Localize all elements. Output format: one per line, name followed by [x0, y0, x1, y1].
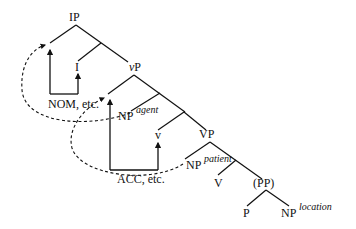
edge-ip-spec [50, 25, 76, 43]
node-np-agent: NP [118, 109, 134, 123]
node-vp-small: vP [129, 60, 141, 74]
edge-ibar-i [78, 43, 101, 61]
node-np-patient-sup: patient [203, 153, 232, 164]
label-acc: ACC, etc. [117, 172, 165, 186]
node-vp: VP [199, 127, 215, 141]
node-v-big: V [214, 176, 223, 190]
node-np-patient: NP [186, 158, 202, 172]
edge-vp-spec [108, 75, 134, 94]
syntax-tree-diagram: IP I vP NP agent v VP NP patient V (PP) … [0, 0, 356, 229]
node-vp-small-p: P [134, 60, 141, 74]
node-i: I [75, 60, 79, 74]
node-np-agent-sup: agent [136, 104, 158, 115]
node-np-location-sup: location [299, 201, 332, 212]
node-np-location: NP [281, 206, 297, 220]
edge-pp-p [247, 190, 266, 206]
edge-vbar2-v [158, 112, 184, 130]
node-v-small: v [155, 128, 161, 142]
svg-text:vP: vP [129, 60, 141, 74]
label-nom: NOM, etc. [48, 97, 99, 111]
edge-pp-nplocation [266, 190, 289, 206]
node-pp: (PP) [253, 176, 274, 190]
node-ip: IP [69, 10, 80, 24]
node-p: P [243, 206, 250, 220]
